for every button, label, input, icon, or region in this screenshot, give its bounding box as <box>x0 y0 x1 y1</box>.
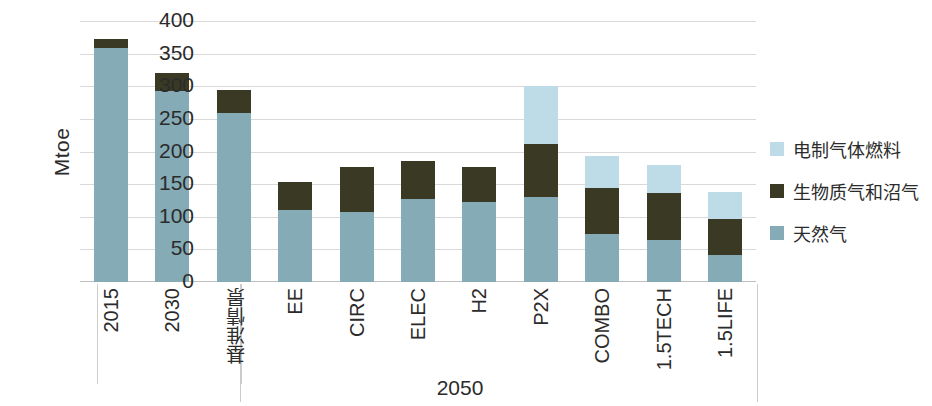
bar-segment <box>462 202 496 282</box>
bar-segment <box>278 182 312 211</box>
y-axis-tick-label: 350 <box>138 41 194 65</box>
bar-segment <box>524 144 558 196</box>
y-axis-tick-label: 150 <box>138 171 194 195</box>
bar-segment <box>585 156 619 188</box>
y-axis-title: Mtoe <box>50 92 74 212</box>
bar-segment <box>217 90 251 113</box>
y-axis-tick-label: 200 <box>138 139 194 163</box>
bar-column[interactable] <box>340 167 374 282</box>
x-axis-tick-label: 2030 <box>161 288 183 333</box>
y-axis-tick-label: 250 <box>138 106 194 130</box>
bar-column[interactable] <box>94 39 128 282</box>
legend-item[interactable]: 天然气 <box>770 212 932 254</box>
x-axis-tick-label: 基准情景 <box>223 288 245 364</box>
bar-segment <box>401 199 435 282</box>
bar-segment <box>340 212 374 282</box>
x-axis-tick-label: COMBO <box>591 288 613 364</box>
legend-item[interactable]: 生物质气和沼气 <box>770 170 932 212</box>
legend-item[interactable]: 电制气体燃料 <box>770 128 932 170</box>
x-axis-tick-label: 1.5LIFE <box>714 288 736 358</box>
bar-segment <box>708 192 742 219</box>
y-axis-tick-label: 50 <box>138 236 194 260</box>
bar-column[interactable] <box>585 156 619 282</box>
x-axis-tick-labels: 20152030基准情景EECIRCELECH2P2XCOMBO1.5TECH1… <box>80 284 756 384</box>
legend-label: 电制气体燃料 <box>793 136 901 162</box>
gas-supply-stacked-bar-chart: Mtoe 400350300250200150100500 20152030基准… <box>0 0 932 406</box>
x-axis-tick-label: CIRC <box>346 288 368 337</box>
bar-segment <box>585 234 619 282</box>
bar-column[interactable] <box>401 161 435 282</box>
legend-swatch-icon <box>770 142 784 156</box>
x-axis-tick-label: 1.5TECH <box>653 288 675 370</box>
bar-segment <box>462 167 496 202</box>
x-axis-tick-label: 2015 <box>100 288 122 333</box>
x-axis-group-label: 2050 <box>400 376 520 400</box>
y-axis-tick-label: 100 <box>138 204 194 228</box>
bar-segment <box>401 161 435 199</box>
bar-segment <box>524 197 558 282</box>
y-axis-tick-label: 300 <box>138 73 194 97</box>
bar-segment <box>708 255 742 282</box>
x-axis-tick-label: ELEC <box>407 288 429 340</box>
bar-segment <box>94 39 128 48</box>
bar-column[interactable] <box>647 165 681 282</box>
bar-segment <box>94 48 128 282</box>
legend-swatch-icon <box>770 184 784 198</box>
x-axis-tick-label: EE <box>284 288 306 315</box>
legend-label: 天然气 <box>793 220 847 246</box>
bar-column[interactable] <box>524 86 558 282</box>
bar-column[interactable] <box>462 167 496 282</box>
bar-column[interactable] <box>278 182 312 282</box>
x-axis-tick-label: P2X <box>530 288 552 326</box>
bar-segment <box>647 193 681 240</box>
bar-segment <box>278 210 312 282</box>
bar-column[interactable] <box>708 192 742 282</box>
legend-label: 生物质气和沼气 <box>793 178 919 204</box>
legend-swatch-icon <box>770 226 784 240</box>
bar-segment <box>708 219 742 255</box>
chart-legend: 电制气体燃料生物质气和沼气天然气 <box>770 128 932 254</box>
bar-column[interactable] <box>217 90 251 282</box>
bar-segment <box>647 240 681 282</box>
x-axis-tick-label: H2 <box>468 288 490 314</box>
bar-segment <box>524 86 558 144</box>
y-axis-tick-label: 400 <box>138 8 194 32</box>
bar-segment <box>340 167 374 212</box>
bar-segment <box>585 188 619 234</box>
bar-segment <box>217 113 251 282</box>
bar-segment <box>647 165 681 193</box>
